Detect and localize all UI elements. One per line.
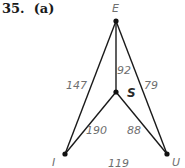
vertex-i-dot [62,151,67,156]
vertex-e-dot [113,18,118,23]
weighted-graph-figure: 35. (a) E S I U 147 92 79 190 88 119 [0,0,185,168]
vertex-label-i: I [52,156,55,168]
edge-weight-e-s: 92 [117,64,131,77]
edge-weight-s-u: 88 [127,124,141,137]
vertex-s-dot [113,89,118,94]
graph-canvas: E S I U 147 92 79 190 88 119 [0,0,185,168]
problem-label: 35. (a) [2,1,54,16]
vertex-u-dot [164,151,169,156]
vertex-label-e: E [112,2,119,15]
edge-e-u [116,21,167,154]
edge-weight-e-i: 147 [66,79,87,92]
edge-s-u [116,92,167,154]
edge-weight-s-i: 190 [86,124,107,137]
edge-weight-i-u: 119 [108,157,129,168]
vertex-label-u: U [172,156,180,168]
vertex-label-s: S [127,86,136,100]
edge-weight-e-u: 79 [144,79,158,92]
edge-s-i [65,92,116,154]
